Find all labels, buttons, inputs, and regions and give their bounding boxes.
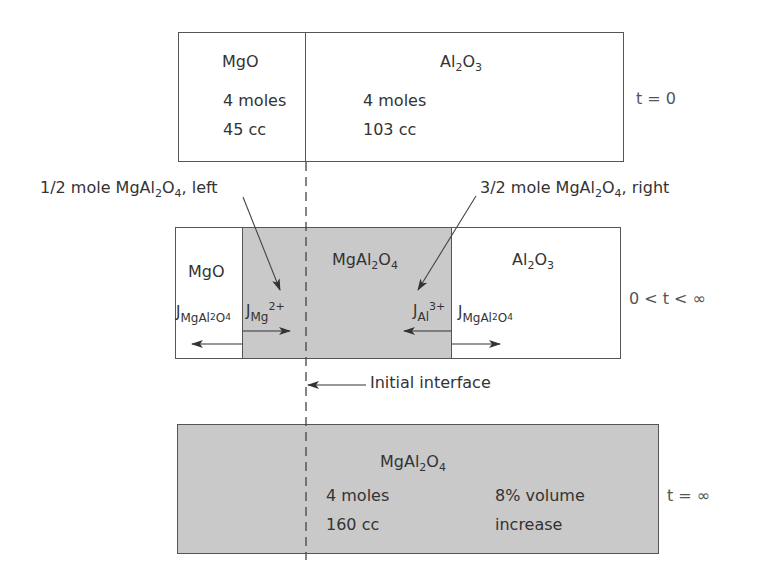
arrows-overlay xyxy=(0,0,772,574)
arrow-left-annotation xyxy=(243,197,280,290)
arrow-right-annotation xyxy=(418,196,476,290)
